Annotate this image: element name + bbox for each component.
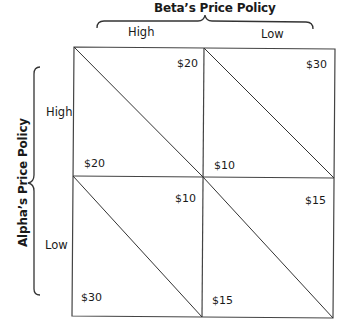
payoff-hl-beta: $30 bbox=[306, 59, 327, 70]
alpha-strategy-high: High bbox=[46, 107, 72, 119]
payoff-hl-alpha: $10 bbox=[214, 160, 235, 171]
payoff-ll-alpha: $15 bbox=[212, 295, 233, 306]
payoff-lh-beta: $10 bbox=[175, 193, 196, 204]
payoff-lh-alpha: $30 bbox=[81, 292, 102, 303]
matrix-vertical-divider bbox=[202, 48, 204, 317]
payoff-matrix-graphic bbox=[0, 0, 343, 326]
payoff-hh-beta: $20 bbox=[177, 58, 198, 69]
payoff-ll-beta: $15 bbox=[305, 195, 326, 206]
beta-title: Beta’s Price Policy bbox=[154, 2, 276, 14]
payoff-hh-alpha: $20 bbox=[84, 158, 105, 169]
alpha-strategy-low: Low bbox=[45, 240, 68, 252]
beta-strategy-low: Low bbox=[261, 29, 284, 41]
alpha-title: Alpha’s Price Policy bbox=[17, 118, 29, 247]
beta-strategy-high: High bbox=[128, 27, 154, 39]
